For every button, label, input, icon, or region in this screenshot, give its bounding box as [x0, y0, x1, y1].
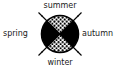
tick-mark-bottom-left — [39, 52, 43, 56]
tick-mark-top-right — [78, 13, 82, 17]
wheel-wedges — [39, 13, 82, 56]
seasons-diagram-page: summer winter spring autumn — [0, 0, 120, 71]
tick-mark-top-left — [39, 13, 43, 17]
season-label-winter: winter — [0, 58, 120, 67]
season-label-summer: summer — [0, 1, 120, 10]
tick-mark-bottom-right — [78, 52, 82, 56]
season-label-spring: spring — [3, 29, 39, 38]
season-label-autumn: autumn — [82, 29, 120, 38]
